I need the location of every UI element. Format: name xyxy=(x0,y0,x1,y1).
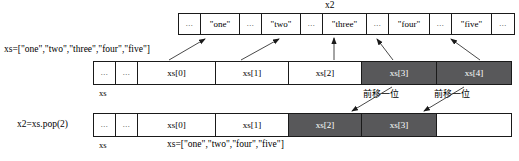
x2-values-row-cell-2: ... xyxy=(240,14,262,34)
cell-label: "five" xyxy=(461,20,482,29)
x2-values-row-cell-5: "three" xyxy=(323,14,367,34)
ellipsis-icon: ... xyxy=(437,20,445,28)
xs-after-pop-row-cell-1: ... xyxy=(116,114,138,136)
xs-after-pop-row-cell-3: xs[1] xyxy=(216,114,289,136)
xs-init-label: xs=["one","two","three","four","five"] xyxy=(4,44,150,55)
ellipsis-icon: ... xyxy=(308,20,316,28)
cell-label: xs[2] xyxy=(316,121,335,130)
cell-label: xs[1] xyxy=(243,69,262,78)
pop-call-label: x2=xs.pop(2) xyxy=(17,119,68,130)
arrow-xs3-to-four xyxy=(377,39,393,60)
arrow-xs4-to-five xyxy=(451,39,480,60)
ellipsis-icon: ... xyxy=(101,69,109,77)
x2-title-label: x2 xyxy=(325,0,335,11)
cell-label: xs[4] xyxy=(465,69,484,78)
x2-values-row-cell-6: ... xyxy=(367,14,389,34)
shift-annotation-0: 前移一位 xyxy=(363,89,399,100)
xs-before-pop-row-cell-5: xs[3] xyxy=(362,62,437,84)
xs-before-pop-row-cell-2: xs[0] xyxy=(138,62,216,84)
xs-before-pop-row: ......xs[0]xs[1]xs[2]xs[3]xs[4] xyxy=(93,61,512,85)
xs-before-pop-row-cell-3: xs[1] xyxy=(216,62,289,84)
xs-result-label: xs=["one","two","four","five"] xyxy=(167,139,284,150)
cell-label: xs[2] xyxy=(316,69,335,78)
xs-after-pop-row-cell-5: xs[3] xyxy=(362,114,437,136)
ellipsis-icon: ... xyxy=(374,20,382,28)
arrow-xs0-to-one xyxy=(169,39,205,60)
diagram-canvas: x2 ..."one"..."two"..."three"..."four"..… xyxy=(0,0,519,161)
cell-label: xs[3] xyxy=(390,121,409,130)
ellipsis-icon: ... xyxy=(499,20,507,28)
x2-values-row: ..."one"..."two"..."three"..."four"..."f… xyxy=(178,13,515,35)
x2-values-row-cell-7: "four" xyxy=(389,14,430,34)
x2-values-row-cell-4: ... xyxy=(301,14,323,34)
ellipsis-icon: ... xyxy=(123,121,131,129)
cell-label: xs[1] xyxy=(243,121,262,130)
x2-values-row-cell-3: "two" xyxy=(262,14,301,34)
xs-caption-middle: xs xyxy=(99,88,107,98)
xs-after-pop-row-cell-6 xyxy=(437,114,511,136)
ellipsis-icon: ... xyxy=(101,121,109,129)
arrow-xs1-to-two xyxy=(241,39,279,60)
xs-after-pop-row-cell-4: xs[2] xyxy=(289,114,362,136)
x2-values-row-cell-8: ... xyxy=(430,14,452,34)
cell-label: xs[3] xyxy=(390,69,409,78)
xs-before-pop-row-cell-1: ... xyxy=(116,62,138,84)
cell-label: "three" xyxy=(332,20,357,29)
cell-label: xs[0] xyxy=(167,69,186,78)
xs-caption-bottom: xs xyxy=(99,140,107,150)
shift-annotation-1: 前移一位 xyxy=(434,89,470,100)
cell-label: "two" xyxy=(271,20,292,29)
x2-values-row-cell-0: ... xyxy=(179,14,201,34)
x2-values-row-cell-1: "one" xyxy=(201,14,240,34)
cell-label: "four" xyxy=(398,20,420,29)
ellipsis-icon: ... xyxy=(123,69,131,77)
x2-values-row-cell-9: "five" xyxy=(452,14,492,34)
xs-before-pop-row-cell-0: ... xyxy=(94,62,116,84)
xs-after-pop-row: ......xs[0]xs[1]xs[2]xs[3] xyxy=(93,113,512,137)
x2-values-row-cell-10: ... xyxy=(492,14,514,34)
xs-after-pop-row-cell-0: ... xyxy=(94,114,116,136)
cell-label: "one" xyxy=(210,20,230,29)
xs-before-pop-row-cell-6: xs[4] xyxy=(437,62,511,84)
xs-before-pop-row-cell-4: xs[2] xyxy=(289,62,362,84)
cell-label: xs[0] xyxy=(167,121,186,130)
ellipsis-icon: ... xyxy=(186,20,194,28)
xs-after-pop-row-cell-2: xs[0] xyxy=(138,114,216,136)
ellipsis-icon: ... xyxy=(247,20,255,28)
